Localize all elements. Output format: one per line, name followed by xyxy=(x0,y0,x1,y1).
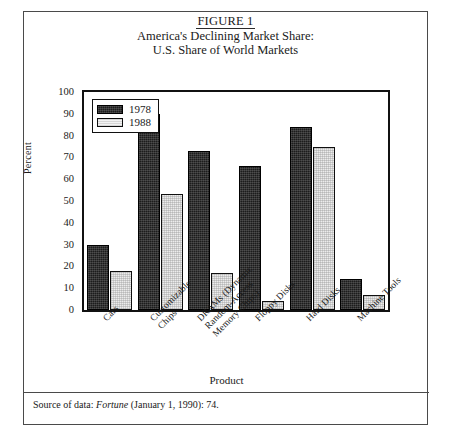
bar-1978-6 xyxy=(340,279,362,310)
source-journal: Fortune xyxy=(96,399,128,410)
legend-swatch-1978 xyxy=(97,105,123,114)
chart-legend: 1978 1988 xyxy=(92,99,159,133)
y-axis-tick-label: 50 xyxy=(64,196,75,206)
chart-container: Percent 0102030405060708090100 1978 1988… xyxy=(24,12,429,426)
bar-1978-2 xyxy=(138,114,160,310)
source-divider xyxy=(24,392,429,393)
y-axis-tick-label: 10 xyxy=(64,283,75,293)
legend-item-1978: 1978 xyxy=(97,103,151,116)
y-axis-tick-label: 30 xyxy=(64,240,75,250)
y-axis-tick-label: 80 xyxy=(64,131,75,141)
x-axis-category-labels: CarsCustomizable ChipsDRAMs (Dynamic Ran… xyxy=(82,312,390,382)
legend-label-1988: 1988 xyxy=(129,117,151,128)
y-axis-tick-label: 40 xyxy=(64,218,75,228)
bar-1978-1 xyxy=(87,245,109,310)
legend-item-1988: 1988 xyxy=(97,116,151,129)
source-prefix: Source of data: xyxy=(33,399,96,410)
bar-1988-5 xyxy=(313,147,335,311)
x-axis-title: Product xyxy=(24,374,429,386)
y-axis-tick-label: 20 xyxy=(64,261,75,271)
legend-swatch-1988 xyxy=(97,118,123,127)
legend-label-1978: 1978 xyxy=(129,104,151,115)
source-citation: (January 1, 1990): 74. xyxy=(128,399,219,410)
y-axis-tick-label: 100 xyxy=(58,87,74,97)
figure-frame: FIGURE 1 America's Declining Market Shar… xyxy=(23,11,428,425)
y-axis-tick-label: 70 xyxy=(64,152,75,162)
y-axis-tick-label: 0 xyxy=(69,305,74,315)
y-axis-ticks: 0102030405060708090100 xyxy=(32,90,78,312)
y-axis-tick-label: 60 xyxy=(64,174,75,184)
y-axis-tick-label: 90 xyxy=(64,109,75,119)
source-note: Source of data: Fortune (January 1, 1990… xyxy=(33,399,219,411)
